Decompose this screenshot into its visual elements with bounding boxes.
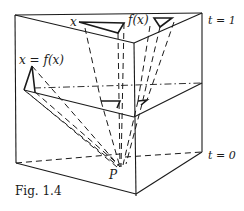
label-f-of-x: f(x) xyxy=(128,14,149,26)
label-point-P: P xyxy=(109,169,117,181)
top-triangles xyxy=(79,18,172,33)
fixed-point-spike xyxy=(24,66,35,92)
prism-drawing xyxy=(0,0,244,211)
projection-lines xyxy=(24,22,174,167)
label-t-equals-0: t = 0 xyxy=(208,150,236,161)
label-fixed-point: x = f(x) xyxy=(19,54,64,66)
prism-diagram: x f(x) t = 1 x = f(x) t = 0 P Fig. 1.4 xyxy=(0,0,244,211)
label-t-equals-1: t = 1 xyxy=(208,15,236,26)
figure-caption: Fig. 1.4 xyxy=(15,185,62,197)
mid-triangles xyxy=(101,100,147,108)
label-x: x xyxy=(70,16,77,28)
